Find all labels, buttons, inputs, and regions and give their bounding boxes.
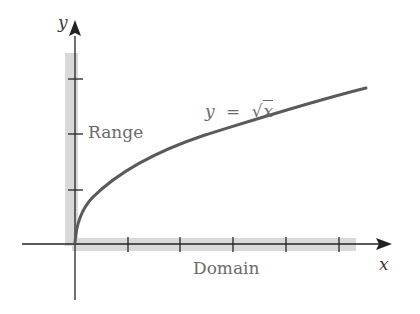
domain-label: Domain xyxy=(193,258,260,278)
radical-icon: √ xyxy=(252,101,263,121)
equation-label: y = √x xyxy=(205,101,273,121)
equation-radicand: x xyxy=(263,100,274,121)
equation-lhs: y xyxy=(205,101,215,121)
y-axis-label: y xyxy=(58,12,68,32)
x-axis-label: x xyxy=(379,254,389,274)
range-label: Range xyxy=(88,122,143,142)
sqrt-function-diagram: y x Range Domain y = √x xyxy=(0,0,420,314)
equation-equals: = xyxy=(226,101,240,121)
range-shading xyxy=(65,53,78,246)
y-axis-arrow-icon xyxy=(69,20,81,36)
